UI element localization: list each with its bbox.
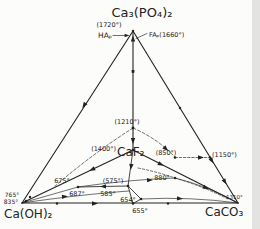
left-corner-compound-label: Ca(OH)₂ bbox=[4, 207, 53, 221]
temp-655-label: 655° bbox=[132, 207, 148, 215]
phase-diagram-figure: Ca₃(PO₄)₂ (1720°) HAₚ FAₚ(1660°) (1210°)… bbox=[0, 0, 260, 229]
dot-654 bbox=[140, 198, 143, 201]
arrow-caf2-caco3-upper bbox=[157, 161, 164, 168]
boundary-654-caco3 bbox=[141, 198, 238, 203]
dot-base-left bbox=[56, 202, 58, 204]
dot-edge-right bbox=[179, 107, 181, 109]
dot-765 bbox=[29, 196, 31, 198]
arrow-curve-880 bbox=[147, 178, 153, 183]
arrow-join-down bbox=[131, 138, 135, 144]
temp-835-label: 835° bbox=[4, 198, 18, 205]
dot-675 bbox=[77, 186, 80, 189]
dot-1210 bbox=[132, 127, 135, 130]
dot-575 bbox=[127, 185, 130, 188]
apex-temp-label: (1720°) bbox=[97, 21, 122, 29]
fap-label: FAₚ(1660°) bbox=[149, 31, 184, 39]
dot-880 bbox=[174, 177, 177, 180]
temp-880-label: 880° bbox=[154, 174, 170, 182]
temp-765-label: 765° bbox=[5, 191, 19, 198]
dot-835 bbox=[25, 200, 27, 202]
hap-label: HAₚ bbox=[98, 31, 112, 40]
arrow-caf2-caoh2 bbox=[88, 166, 95, 173]
right-corner-compound-label: CaCO₃ bbox=[205, 205, 244, 219]
arrow-dashed-1150 bbox=[198, 155, 204, 159]
temp-687-label: 687° bbox=[69, 190, 85, 198]
caf2-label: CaF₂ bbox=[117, 145, 145, 159]
fap-leader-line bbox=[136, 34, 147, 39]
triangle-edge-right bbox=[133, 31, 238, 203]
apex-compound-label: Ca₃(PO₄)₂ bbox=[112, 5, 173, 20]
arrow-curve-654 bbox=[177, 196, 183, 201]
temp-585-label: 585° bbox=[100, 190, 116, 198]
ternary-diagram-canvas: Ca₃(PO₄)₂ (1720°) HAₚ FAₚ(1660°) (1210°)… bbox=[0, 0, 260, 229]
tick-join-mid bbox=[132, 70, 135, 73]
dot-apex bbox=[132, 30, 134, 32]
temp-850-label: (850°) bbox=[156, 149, 177, 157]
dot-base-right bbox=[167, 202, 169, 204]
arrow-lower-join bbox=[128, 164, 133, 171]
arrow-join-up bbox=[131, 36, 135, 42]
temp-575-label: (575°) bbox=[103, 177, 124, 185]
temp-675-label: 675° bbox=[54, 177, 70, 185]
temp-1400-label: (1400°) bbox=[91, 145, 116, 153]
arrow-curve-687 bbox=[62, 194, 68, 199]
dashed-880-right bbox=[175, 178, 228, 199]
temp-1310-label: 1310° bbox=[226, 194, 243, 200]
temp-1150-label: (1150°) bbox=[212, 151, 237, 159]
temp-654-label: 654° bbox=[120, 196, 136, 204]
temp-1210-label: (1210°) bbox=[115, 118, 140, 126]
arrow-base-left bbox=[92, 201, 98, 205]
dot-1150 bbox=[209, 156, 212, 159]
